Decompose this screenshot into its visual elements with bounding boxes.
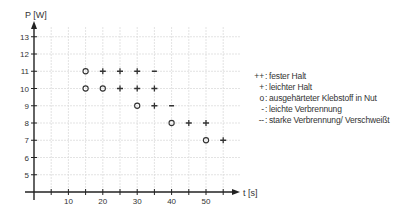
legend-label: leichte Verbrennung <box>269 104 342 115</box>
legend-label: leichter Halt <box>269 82 312 93</box>
data-point <box>203 120 209 126</box>
legend-symbol: + <box>244 82 265 93</box>
data-point <box>151 103 157 109</box>
legend-item-starke-verbrennung: --:starke Verbrennung/ Verschweißt <box>244 115 390 126</box>
y-tick-label: 8 <box>25 119 30 128</box>
x-axis-label: t [s] <box>243 188 258 198</box>
legend-symbol: - <box>244 104 265 115</box>
legend-symbol: ++ <box>244 71 265 82</box>
plus-marker-icon <box>134 68 140 74</box>
y-tick-label: 12 <box>20 50 29 59</box>
y-axis-label: P [W] <box>25 10 47 20</box>
legend-label: fester Halt <box>269 71 306 82</box>
data-point <box>100 68 106 74</box>
legend: ++:fester Halt +:leichter Halt o:ausgehä… <box>244 71 390 126</box>
plus-marker-icon <box>100 68 106 74</box>
legend-item-leichte-verbrennung: -:leichte Verbrennung <box>244 104 390 115</box>
plus-marker-icon <box>151 86 157 92</box>
x-tick-label: 50 <box>202 197 211 206</box>
data-point <box>117 68 123 74</box>
plus-marker-icon <box>134 86 140 92</box>
axes <box>25 21 240 200</box>
legend-label: starke Verbrennung/ Verschweißt <box>269 115 390 126</box>
legend-item-leichter-halt: +:leichter Halt <box>244 82 390 93</box>
y-axis-arrow-icon <box>31 21 37 29</box>
plus-marker-icon <box>151 103 157 109</box>
legend-symbol: -- <box>244 115 265 126</box>
data-point <box>186 120 192 126</box>
plus-marker-icon <box>186 120 192 126</box>
ticks: 56789101112131020304050 <box>20 33 223 206</box>
plus-marker-icon <box>117 68 123 74</box>
y-tick-label: 7 <box>25 136 30 145</box>
data-point <box>134 68 140 74</box>
x-tick-label: 20 <box>98 197 107 206</box>
y-tick-label: 11 <box>21 67 30 76</box>
plus-marker-icon <box>203 120 209 126</box>
legend-label: ausgehärteter Klebstoff in Nut <box>269 93 377 104</box>
y-tick-label: 5 <box>25 171 30 180</box>
x-tick-label: 30 <box>133 197 142 206</box>
x-tick-label: 40 <box>167 197 176 206</box>
y-tick-label: 13 <box>20 33 29 42</box>
plus-marker-icon <box>117 86 123 92</box>
y-tick-label: 6 <box>25 154 30 163</box>
data-point <box>117 86 123 92</box>
data-point <box>134 86 140 92</box>
data-point <box>151 86 157 92</box>
y-tick-label: 10 <box>20 85 29 94</box>
y-tick-label: 9 <box>25 102 30 111</box>
data-point <box>220 137 226 143</box>
x-tick-label: 10 <box>64 197 73 206</box>
x-axis-arrow-icon <box>232 189 240 195</box>
legend-item-fester-halt: ++:fester Halt <box>244 71 390 82</box>
plus-marker-icon <box>220 137 226 143</box>
legend-item-klebstoff: o:ausgehärteter Klebstoff in Nut <box>244 93 390 104</box>
grid <box>34 27 240 192</box>
legend-symbol: o <box>244 93 265 104</box>
